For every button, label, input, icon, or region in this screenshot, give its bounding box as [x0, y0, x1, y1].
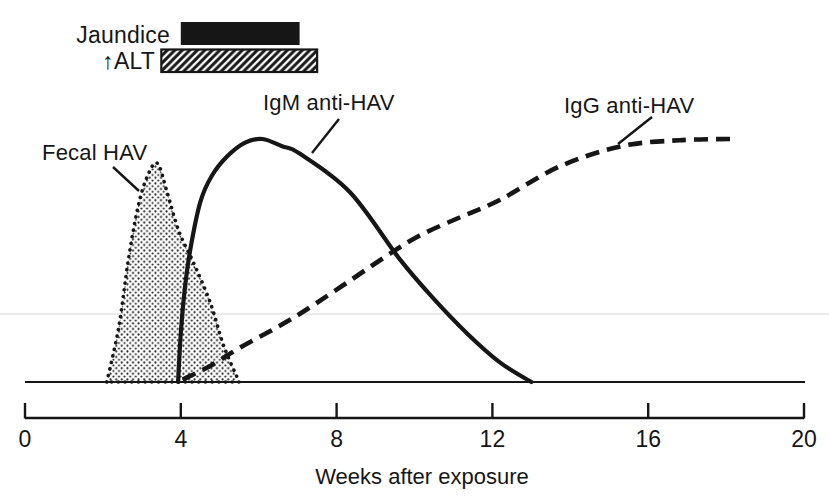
- x-axis-title: Weeks after exposure: [315, 464, 529, 489]
- igm-leader-line: [312, 119, 339, 153]
- x-tick-label: 20: [791, 426, 817, 452]
- fecal-hav-curve: [107, 163, 239, 382]
- igg-anti-hav-curve: [183, 139, 730, 380]
- x-tick-label: 8: [330, 426, 343, 452]
- chart-canvas: Jaundice ↑ALT Fecal HAV IgM anti-HAV IgG…: [0, 0, 829, 503]
- alt-label: ↑ALT: [102, 48, 155, 74]
- igg-anti-hav-label: IgG anti-HAV: [564, 93, 694, 118]
- jaundice-label: Jaundice: [76, 22, 170, 48]
- alt-elevated-bar: [161, 50, 317, 73]
- igm-anti-hav-curve: [178, 139, 531, 382]
- x-tick-label: 4: [174, 426, 187, 452]
- fecal-leader-line: [113, 167, 139, 191]
- x-tick-label: 12: [480, 426, 506, 452]
- fecal-hav-label: Fecal HAV: [42, 140, 147, 165]
- jaundice-bar: [181, 22, 300, 45]
- igg-leader-line: [618, 117, 652, 144]
- x-tick-label: 16: [635, 426, 661, 452]
- igm-anti-hav-label: IgM anti-HAV: [263, 90, 395, 115]
- x-tick-label: 0: [19, 426, 32, 452]
- hav-serology-figure: Jaundice ↑ALT Fecal HAV IgM anti-HAV IgG…: [0, 0, 829, 503]
- x-axis-ticks: 048121620: [19, 403, 817, 452]
